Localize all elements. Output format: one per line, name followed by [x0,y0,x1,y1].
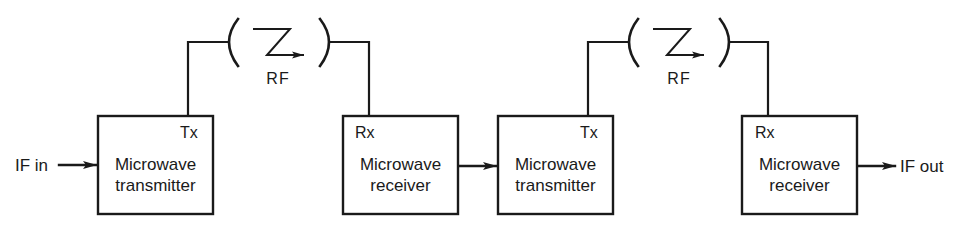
antenna-left-bracket [229,19,238,66]
rf-link-2: RF [588,19,768,116]
block-receiver-1: Rx Microwave receiver [343,116,458,214]
feed-line-tx1 [188,42,227,116]
rf-label: RF [667,70,690,87]
radio-link-zigzag-icon [254,29,303,55]
antenna-left-bracket [629,19,638,66]
block-title-line2: transmitter [515,176,596,195]
block-title-line2: receiver [769,176,830,195]
block-title-line1: Microwave [360,155,441,174]
if-in-label: IF in [15,156,48,175]
if-out-label: IF out [900,157,944,176]
block-transmitter-1: Tx Microwave transmitter [98,116,213,214]
rf-label: RF [266,70,289,87]
feed-line-rx2 [731,42,768,116]
if-output: IF out [858,157,944,176]
rf-link-1: RF [188,19,369,116]
block-title-line2: transmitter [115,176,196,195]
radio-link-zigzag-icon [654,29,703,55]
if-input: IF in [15,156,96,175]
block-tag: Tx [180,124,198,141]
block-transmitter-2: Tx Microwave transmitter [498,116,613,214]
feed-line-rx1 [331,42,369,116]
block-title-line1: Microwave [759,155,840,174]
block-tag: Tx [580,124,598,141]
block-tag: Rx [755,124,775,141]
block-tag: Rx [355,124,375,141]
block-title-line2: receiver [370,176,431,195]
block-title-line1: Microwave [515,155,596,174]
block-title-line1: Microwave [115,155,196,174]
antenna-right-bracket [320,19,329,66]
block-receiver-2: Rx Microwave receiver [742,116,857,214]
feed-line-tx2 [588,42,627,116]
microwave-relay-diagram: IF in Tx Microwave transmitter RF Rx Mic… [0,0,966,230]
antenna-right-bracket [720,19,729,66]
